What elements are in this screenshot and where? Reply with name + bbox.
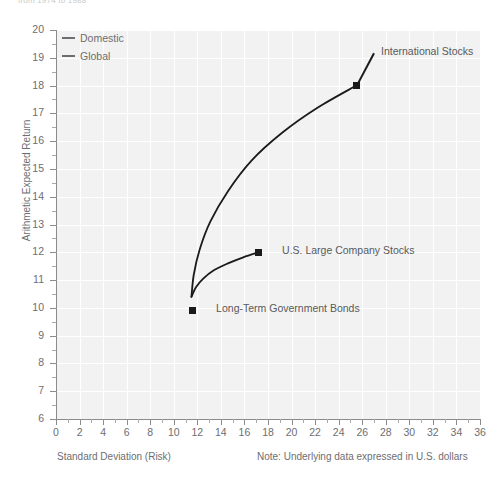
data-point-label: International Stocks <box>381 45 473 57</box>
frontier-curve-domestic <box>191 252 258 296</box>
frontier-curves <box>0 0 504 482</box>
chart-canvas: from 1974 to 1988 6789101112131415161718… <box>0 0 504 482</box>
data-point-label: U.S. Large Company Stocks <box>282 244 414 256</box>
data-point-marker[interactable] <box>353 82 360 89</box>
data-point-label: Long-Term Government Bonds <box>216 302 360 314</box>
frontier-curve-global <box>191 86 356 297</box>
data-point-marker[interactable] <box>189 307 196 314</box>
data-point-marker[interactable] <box>255 249 262 256</box>
